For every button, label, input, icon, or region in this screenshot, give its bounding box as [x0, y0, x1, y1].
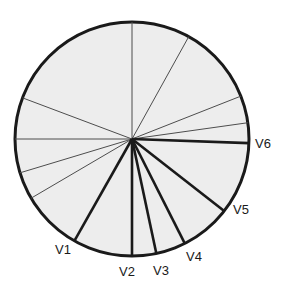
vector-label-v2: V2 — [119, 264, 135, 279]
vector-diagram-canvas: V1V2V3V4V5V6 — [0, 0, 284, 285]
vector-label-v5: V5 — [233, 202, 249, 217]
vector-label-v4: V4 — [186, 249, 202, 264]
vector-label-v3: V3 — [153, 263, 169, 278]
vector-label-v6: V6 — [255, 136, 271, 151]
vector-label-v1: V1 — [55, 242, 71, 257]
vector-circle-figure: V1V2V3V4V5V6 — [0, 0, 284, 285]
